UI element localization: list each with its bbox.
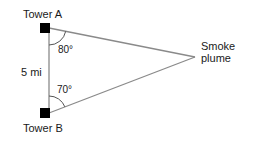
smoke-label: Smoke (201, 40, 235, 52)
angle-arc-a (49, 31, 66, 45)
tower-a-marker (40, 23, 50, 33)
tower-b-label: Tower B (23, 122, 63, 134)
plume-label: plume (201, 52, 231, 64)
angle-b-label: 70° (57, 84, 72, 95)
angle-arc-b (49, 96, 65, 107)
side-length-label: 5 mi (21, 66, 42, 78)
angle-a-label: 80° (58, 44, 73, 55)
tower-b-marker (40, 108, 50, 118)
tower-a-label: Tower A (23, 8, 62, 20)
